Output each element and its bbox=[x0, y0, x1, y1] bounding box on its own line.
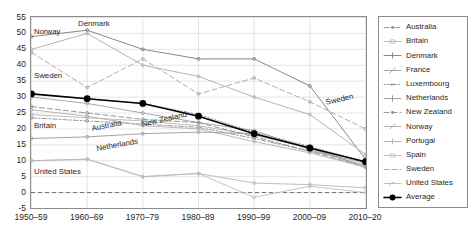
average-data-point bbox=[306, 145, 313, 152]
legend-marker-icon bbox=[383, 36, 402, 46]
legend-item-denmark[interactable]: Denmark bbox=[379, 48, 467, 62]
legend-item-spain[interactable]: Spain bbox=[379, 148, 467, 162]
average-data-point bbox=[251, 130, 258, 137]
series-annotation-label: Sweden bbox=[34, 72, 62, 80]
x-tick-label: 1970–79 bbox=[126, 213, 159, 222]
legend-item-france[interactable]: France bbox=[379, 63, 467, 77]
legend-item-sweden[interactable]: Sweden bbox=[379, 162, 467, 176]
legend-item-label: Spain bbox=[406, 151, 426, 159]
legend-item-label: Sweden bbox=[406, 165, 434, 173]
legend-marker-icon bbox=[383, 178, 402, 188]
legend-marker-icon bbox=[383, 107, 402, 117]
series-annotation-label: Britain bbox=[34, 122, 56, 130]
series-annotation-label: Norway bbox=[34, 28, 60, 36]
x-tick-label: 1980–89 bbox=[181, 213, 214, 222]
legend-marker-icon bbox=[383, 50, 402, 60]
average-data-point bbox=[31, 91, 35, 98]
legend-item-label: Norway bbox=[406, 123, 432, 131]
legend-marker-icon bbox=[383, 150, 402, 160]
legend-marker-icon bbox=[383, 93, 402, 103]
legend-item-average[interactable]: Average bbox=[379, 190, 467, 204]
legend-item-label: Britain bbox=[406, 37, 428, 45]
x-tick-label: 1960–69 bbox=[70, 213, 103, 222]
legend-item-netherlands[interactable]: Netherlands bbox=[379, 91, 467, 105]
legend-item-united-states[interactable]: United States bbox=[379, 176, 467, 190]
legend-item-britain[interactable]: Britain bbox=[379, 34, 467, 48]
legend-marker-icon bbox=[383, 65, 402, 75]
legend-item-norway[interactable]: Norway bbox=[379, 119, 467, 133]
x-tick-label: 2010–20 bbox=[348, 213, 381, 222]
legend-item-new-zealand[interactable]: New Zealand bbox=[379, 105, 467, 119]
legend-item-label: Australia bbox=[406, 23, 436, 31]
chart-root: 5550454035302520151050-5 1950–591960–691… bbox=[0, 0, 473, 243]
legend-item-label: United States bbox=[406, 179, 453, 187]
legend-marker-icon bbox=[383, 136, 402, 146]
legend-item-label: New Zealand bbox=[406, 108, 452, 116]
legend-item-luxembourg[interactable]: Luxembourg bbox=[379, 77, 467, 91]
legend-marker-icon bbox=[383, 22, 402, 32]
legend-box: AustraliaBritainDenmarkFranceLuxembourgN… bbox=[378, 16, 468, 208]
series-annotation-label: Denmark bbox=[78, 20, 110, 28]
x-tick-label: 1990–99 bbox=[237, 213, 270, 222]
legend-item-label: France bbox=[406, 66, 430, 74]
average-data-point bbox=[195, 113, 202, 120]
legend-marker-icon bbox=[383, 164, 402, 174]
legend-item-label: Luxembourg bbox=[406, 80, 449, 88]
legend-marker-icon bbox=[383, 192, 402, 202]
x-tick-label: 2000–09 bbox=[293, 213, 326, 222]
average-data-point bbox=[362, 158, 366, 165]
legend-item-portugal[interactable]: Portugal bbox=[379, 134, 467, 148]
series-annotation-label: United States bbox=[34, 168, 81, 176]
legend-item-label: Denmark bbox=[406, 52, 438, 60]
legend-item-australia[interactable]: Australia bbox=[379, 20, 467, 34]
plot-area bbox=[30, 16, 367, 209]
legend-marker-icon bbox=[383, 121, 402, 131]
x-tick-label: 1950–59 bbox=[14, 213, 47, 222]
plot-lines bbox=[31, 17, 366, 208]
average-data-point bbox=[139, 100, 146, 107]
legend-item-label: Average bbox=[406, 193, 435, 201]
average-data-point bbox=[84, 95, 91, 102]
legend-item-label: Netherlands bbox=[406, 94, 448, 102]
legend-item-label: Portugal bbox=[406, 137, 435, 145]
legend-marker-icon bbox=[383, 79, 402, 89]
